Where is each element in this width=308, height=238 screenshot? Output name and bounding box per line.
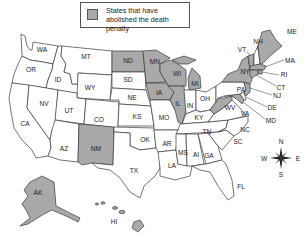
label-az: AZ	[60, 145, 68, 152]
label-ri: RI	[281, 71, 288, 78]
label-ar: AR	[162, 140, 171, 147]
label-ok: OK	[140, 136, 150, 143]
label-co: CO	[94, 116, 104, 123]
label-il: IL	[175, 100, 181, 107]
label-ga: GA	[204, 152, 214, 159]
compass-n: N	[279, 138, 284, 145]
label-ut: UT	[65, 107, 74, 114]
state-ri[interactable]	[258, 70, 262, 74]
label-vt: VT	[238, 46, 246, 53]
legend-swatch	[87, 9, 98, 20]
label-sd: SD	[123, 76, 132, 83]
label-ia: IA	[156, 89, 163, 96]
state-ct[interactable]	[250, 70, 258, 78]
label-nv: NV	[39, 100, 49, 107]
label-tx: TX	[130, 167, 139, 174]
label-ky: KY	[195, 114, 204, 121]
label-de: DE	[267, 104, 277, 111]
label-wy: WY	[85, 84, 96, 91]
label-wv: WV	[225, 104, 236, 111]
label-va: VA	[241, 110, 250, 117]
label-ms: MS	[178, 149, 188, 156]
label-al: Al	[193, 151, 199, 158]
label-nd: ND	[123, 57, 133, 64]
state-ak[interactable]	[20, 176, 80, 226]
label-nh: NH	[253, 38, 263, 45]
label-ne: NE	[127, 94, 137, 101]
label-wa: WA	[37, 46, 48, 53]
label-nj: NJ	[273, 92, 281, 99]
label-nc: NC	[240, 126, 250, 133]
label-ny: NY	[240, 68, 250, 75]
compass-w: W	[261, 155, 268, 162]
map-legend: States that have abolished the death pen…	[80, 2, 190, 28]
label-in: IN	[187, 102, 194, 109]
label-mo: MO	[159, 114, 170, 121]
compass-rose-icon: N S E W	[261, 138, 301, 178]
label-pa: PA	[237, 86, 246, 93]
us-map: WA OR CA ID NV MT WY UT AZ CO NM ND SD N…	[0, 0, 308, 238]
label-mn: MN	[150, 58, 160, 65]
label-id: ID	[55, 76, 62, 83]
label-nm: NM	[91, 145, 101, 152]
label-ma: MA	[285, 57, 295, 64]
label-me: ME	[287, 28, 297, 35]
compass-s: S	[279, 171, 284, 178]
compass-e: E	[296, 155, 301, 162]
state-hi[interactable]	[95, 202, 144, 232]
label-mt: MT	[81, 53, 91, 60]
label-tn: TN	[203, 128, 212, 135]
label-md: MD	[266, 117, 276, 124]
label-la: LA	[168, 162, 177, 169]
label-or: OR	[26, 66, 36, 73]
label-ca: CA	[20, 120, 30, 127]
state-me[interactable]	[258, 30, 282, 64]
label-ak: AK	[34, 189, 43, 196]
label-sc: SC	[233, 138, 242, 145]
state-fl[interactable]	[192, 160, 234, 200]
state-co[interactable]	[84, 99, 119, 128]
label-mi: MI	[191, 80, 198, 87]
label-hi: HI	[111, 218, 118, 225]
label-wi: WI	[173, 70, 181, 77]
legend-label: States that have abolished the death pen…	[106, 6, 190, 33]
label-fl: FL	[237, 183, 245, 190]
label-ct: CT	[277, 84, 286, 91]
label-ks: KS	[133, 113, 142, 120]
label-oh: OH	[200, 95, 210, 102]
